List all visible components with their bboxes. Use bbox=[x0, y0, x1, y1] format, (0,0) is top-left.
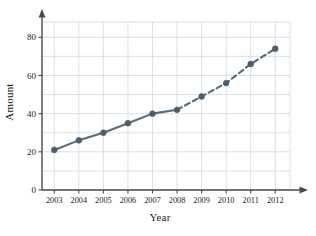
data-point-marker bbox=[76, 137, 82, 143]
y-axis-ticks: 020406080 bbox=[27, 32, 42, 195]
x-tick-label: 2006 bbox=[120, 196, 137, 205]
data-point-marker bbox=[272, 46, 278, 52]
x-tick-label: 2009 bbox=[193, 196, 210, 205]
y-tick-label: 80 bbox=[27, 32, 37, 42]
data-point-markers bbox=[51, 46, 278, 153]
x-tick-label: 2007 bbox=[144, 196, 161, 205]
data-series-lines bbox=[54, 49, 275, 150]
data-point-marker bbox=[174, 107, 180, 113]
y-axis-arrowhead bbox=[39, 9, 46, 18]
data-point-marker bbox=[125, 120, 131, 126]
horizontal-gridlines bbox=[42, 22, 290, 190]
line-chart: 020406080 200320042005200620072008200920… bbox=[0, 0, 316, 236]
x-axis-title: Year bbox=[120, 211, 200, 223]
data-point-marker bbox=[223, 80, 229, 86]
series-line-solid bbox=[54, 110, 177, 150]
vertical-gridlines bbox=[54, 22, 290, 190]
chart-canvas: 020406080 200320042005200620072008200920… bbox=[0, 0, 316, 236]
x-axis-ticks: 2003200420052006200720082009201020112012 bbox=[46, 190, 284, 205]
data-point-marker bbox=[100, 130, 106, 136]
y-tick-label: 40 bbox=[27, 109, 37, 119]
x-tick-label: 2004 bbox=[71, 196, 88, 205]
data-point-marker bbox=[199, 94, 205, 100]
x-tick-label: 2008 bbox=[169, 196, 186, 205]
y-tick-label: 60 bbox=[27, 71, 37, 81]
data-point-marker bbox=[150, 111, 156, 117]
x-tick-label: 2010 bbox=[218, 196, 235, 205]
data-point-marker bbox=[51, 147, 57, 153]
x-tick-label: 2011 bbox=[243, 196, 259, 205]
y-tick-label: 20 bbox=[27, 147, 37, 157]
x-axis-arrowhead bbox=[300, 187, 309, 194]
x-tick-label: 2003 bbox=[46, 196, 63, 205]
x-tick-label: 2005 bbox=[95, 196, 112, 205]
y-tick-label: 0 bbox=[32, 185, 37, 195]
x-tick-label: 2012 bbox=[267, 196, 284, 205]
y-axis-title: Amount bbox=[3, 72, 15, 132]
data-point-marker bbox=[248, 61, 254, 67]
